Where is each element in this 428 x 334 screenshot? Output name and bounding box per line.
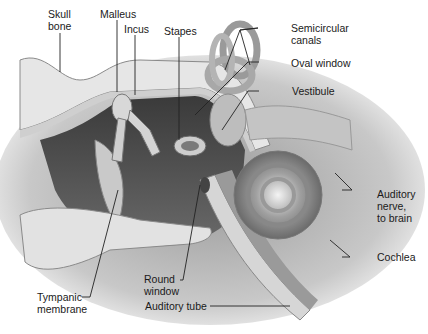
label-tympanic-membrane: Tympanic membrane (37, 291, 87, 315)
label-vestibule: Vestibule (292, 85, 335, 97)
stapes-footplate (181, 141, 199, 151)
label-oval-window: Oval window (291, 57, 351, 69)
label-cochlea: Cochlea (377, 251, 416, 263)
label-skull-bone: Skull bone (48, 8, 71, 32)
label-auditory-nerve: Auditory nerve, to brain (377, 188, 416, 224)
label-semicircular-canals: Semicircular canals (291, 22, 349, 46)
round-window-shape (200, 177, 210, 193)
label-malleus: Malleus (100, 8, 136, 20)
label-auditory-tube: Auditory tube (145, 300, 207, 312)
ear-illustration (0, 0, 428, 334)
label-incus: Incus (124, 23, 149, 35)
label-round-window: Round window (144, 273, 179, 297)
ear-anatomy-diagram: Skull bone Malleus Incus Stapes Semicirc… (0, 0, 428, 334)
label-stapes: Stapes (164, 25, 197, 37)
